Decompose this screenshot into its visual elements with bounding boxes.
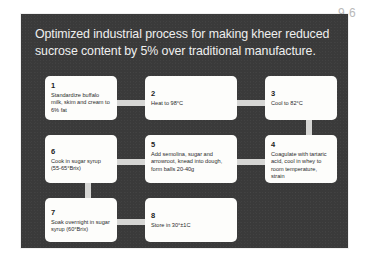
step-number: 6 [51, 147, 111, 156]
connector-2-to-3 [237, 100, 265, 106]
step-text: Coagulate with tartaric acid, cool in wh… [271, 151, 331, 181]
step-text: Cook in sugar syrup (55-65°Brix) [51, 158, 111, 173]
step-number: 4 [271, 140, 331, 149]
flow-step-1[interactable]: 1 Standardize buffalo milk, skim and cre… [45, 76, 117, 120]
flow-step-2[interactable]: 2 Heat to 98°C [145, 76, 237, 120]
step-text: Store in 30°±1C [151, 222, 231, 229]
connector-5-to-6 [117, 159, 145, 165]
slide-title: Optimized industrial process for making … [35, 26, 335, 59]
step-number: 8 [151, 211, 231, 220]
step-number: 2 [151, 89, 231, 98]
flow-step-7[interactable]: 7 Soak overnight in sugar syrup (60°Brix… [45, 198, 117, 242]
flow-step-5[interactable]: 5 Add semolina, sugar and arrowroot, kne… [145, 135, 237, 183]
connector-7-to-8 [117, 219, 145, 225]
step-text: Add semolina, sugar and arrowroot, knead… [151, 151, 231, 173]
step-text: Heat to 98°C [151, 100, 231, 107]
step-text: Standardize buffalo milk, skim and cream… [51, 92, 111, 114]
step-text: Soak overnight in sugar syrup (60°Brix) [51, 219, 111, 234]
step-number: 1 [51, 81, 111, 90]
step-number: 3 [271, 89, 331, 98]
step-number: 7 [51, 208, 111, 217]
slide-panel: Optimized industrial process for making … [21, 14, 348, 248]
step-number: 5 [151, 140, 231, 149]
connector-1-to-2 [117, 100, 145, 106]
flow-step-4[interactable]: 4 Coagulate with tartaric acid, cool in … [265, 135, 337, 183]
connector-4-to-5 [237, 159, 265, 165]
step-text: Cool to 82°C [271, 100, 331, 107]
flow-step-3[interactable]: 3 Cool to 82°C [265, 76, 337, 120]
flow-step-6[interactable]: 6 Cook in sugar syrup (55-65°Brix) [45, 135, 117, 183]
flow-step-8[interactable]: 8 Store in 30°±1C [145, 198, 237, 242]
